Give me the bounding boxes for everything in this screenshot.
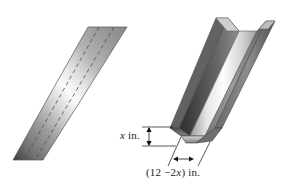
width-arrow-head-left bbox=[173, 157, 178, 162]
width-label-minus: −2 bbox=[164, 166, 176, 178]
height-label-unit: in. bbox=[128, 129, 140, 141]
flat-metal-sheet bbox=[13, 27, 127, 160]
width-arrow-head-right bbox=[189, 157, 194, 162]
flat-sheet-surface bbox=[13, 27, 127, 160]
folded-u-channel-gutter bbox=[170, 18, 275, 143]
width-label-open: (12 bbox=[146, 166, 164, 178]
gutter-construction-figure bbox=[0, 0, 281, 189]
height-arrow-head-up bbox=[146, 127, 151, 132]
width-label-close: ) in. bbox=[181, 166, 200, 178]
height-dimension bbox=[142, 127, 176, 146]
height-dimension-label: x in. bbox=[120, 129, 140, 141]
width-dimension-label: (12 −2x) in. bbox=[146, 166, 200, 178]
width-extension-line-right bbox=[198, 142, 210, 166]
width-extension-line-left bbox=[168, 137, 181, 166]
height-arrow-head-down bbox=[146, 141, 151, 146]
